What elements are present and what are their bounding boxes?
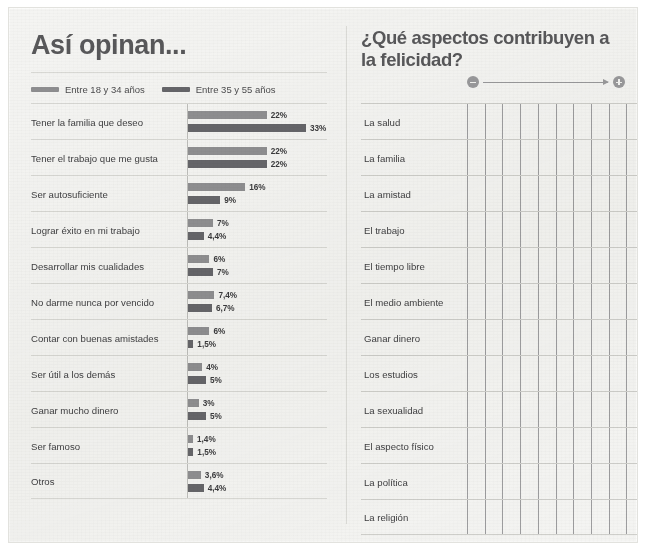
rating-cell[interactable]	[502, 428, 520, 463]
rating-cell[interactable]	[591, 356, 609, 391]
rating-cell[interactable]	[485, 428, 503, 463]
rating-cell[interactable]	[626, 500, 638, 534]
rating-cell[interactable]	[591, 392, 609, 427]
rating-cell[interactable]	[520, 212, 538, 247]
rating-cell[interactable]	[485, 356, 503, 391]
rating-cell[interactable]	[573, 212, 591, 247]
rating-cell[interactable]	[485, 140, 503, 175]
aspect-row[interactable]: El medio ambiente	[361, 283, 638, 319]
aspect-row[interactable]: La religión	[361, 499, 638, 535]
rating-cell[interactable]	[520, 392, 538, 427]
rating-cell[interactable]	[538, 284, 556, 319]
aspect-row[interactable]: La política	[361, 463, 638, 499]
rating-cell[interactable]	[538, 212, 556, 247]
rating-cell[interactable]	[538, 248, 556, 283]
rating-cell[interactable]	[467, 392, 485, 427]
rating-cell[interactable]	[626, 140, 638, 175]
rating-cell[interactable]	[591, 104, 609, 139]
rating-cell[interactable]	[502, 140, 520, 175]
rating-cell[interactable]	[556, 392, 574, 427]
rating-cell[interactable]	[502, 464, 520, 499]
rating-cell[interactable]	[467, 428, 485, 463]
rating-cell[interactable]	[485, 392, 503, 427]
rating-cell[interactable]	[538, 428, 556, 463]
aspect-row[interactable]: El aspecto físico	[361, 427, 638, 463]
rating-cell[interactable]	[485, 176, 503, 211]
rating-cell[interactable]	[609, 284, 627, 319]
rating-cell[interactable]	[573, 356, 591, 391]
rating-cell[interactable]	[520, 428, 538, 463]
rating-cell[interactable]	[467, 320, 485, 355]
rating-cell[interactable]	[573, 104, 591, 139]
rating-cell[interactable]	[502, 500, 520, 534]
rating-cell[interactable]	[467, 500, 485, 534]
aspect-row[interactable]: La familia	[361, 139, 638, 175]
rating-cell[interactable]	[520, 500, 538, 534]
rating-cell[interactable]	[556, 104, 574, 139]
rating-cell[interactable]	[556, 500, 574, 534]
rating-cell[interactable]	[573, 248, 591, 283]
rating-cell[interactable]	[626, 104, 638, 139]
rating-cell[interactable]	[502, 284, 520, 319]
rating-cell[interactable]	[520, 176, 538, 211]
rating-cell[interactable]	[591, 500, 609, 534]
rating-cell[interactable]	[538, 140, 556, 175]
rating-cell[interactable]	[573, 320, 591, 355]
rating-cell[interactable]	[626, 356, 638, 391]
rating-cell[interactable]	[573, 392, 591, 427]
rating-cell[interactable]	[609, 392, 627, 427]
rating-cell[interactable]	[538, 464, 556, 499]
rating-cell[interactable]	[609, 464, 627, 499]
rating-cell[interactable]	[520, 140, 538, 175]
rating-cell[interactable]	[485, 320, 503, 355]
rating-cell[interactable]	[485, 500, 503, 534]
rating-cell[interactable]	[609, 356, 627, 391]
rating-cell[interactable]	[485, 464, 503, 499]
rating-cell[interactable]	[626, 176, 638, 211]
rating-cell[interactable]	[556, 140, 574, 175]
rating-cell[interactable]	[520, 464, 538, 499]
rating-cell[interactable]	[538, 176, 556, 211]
rating-cell[interactable]	[538, 500, 556, 534]
rating-cell[interactable]	[626, 392, 638, 427]
rating-cell[interactable]	[520, 248, 538, 283]
rating-cell[interactable]	[573, 428, 591, 463]
rating-cell[interactable]	[573, 176, 591, 211]
rating-cell[interactable]	[467, 140, 485, 175]
rating-cell[interactable]	[609, 104, 627, 139]
rating-cell[interactable]	[556, 176, 574, 211]
rating-cell[interactable]	[502, 104, 520, 139]
aspect-row[interactable]: El trabajo	[361, 211, 638, 247]
rating-cell[interactable]	[538, 320, 556, 355]
rating-cell[interactable]	[591, 464, 609, 499]
rating-cell[interactable]	[573, 464, 591, 499]
aspect-row[interactable]: El tiempo libre	[361, 247, 638, 283]
rating-cell[interactable]	[467, 176, 485, 211]
rating-cell[interactable]	[609, 248, 627, 283]
aspect-row[interactable]: Ganar dinero	[361, 319, 638, 355]
rating-cell[interactable]	[556, 248, 574, 283]
rating-cell[interactable]	[591, 320, 609, 355]
rating-cell[interactable]	[609, 176, 627, 211]
rating-cell[interactable]	[485, 212, 503, 247]
rating-cell[interactable]	[573, 140, 591, 175]
rating-cell[interactable]	[556, 428, 574, 463]
rating-cell[interactable]	[556, 284, 574, 319]
aspect-row[interactable]: La amistad	[361, 175, 638, 211]
rating-cell[interactable]	[485, 104, 503, 139]
rating-cell[interactable]	[573, 500, 591, 534]
rating-cell[interactable]	[609, 428, 627, 463]
rating-cell[interactable]	[467, 356, 485, 391]
rating-cell[interactable]	[609, 320, 627, 355]
rating-cell[interactable]	[502, 248, 520, 283]
rating-cell[interactable]	[502, 320, 520, 355]
rating-cell[interactable]	[591, 284, 609, 319]
rating-cell[interactable]	[467, 284, 485, 319]
rating-cell[interactable]	[520, 104, 538, 139]
rating-cell[interactable]	[502, 392, 520, 427]
rating-cell[interactable]	[502, 212, 520, 247]
rating-cell[interactable]	[591, 212, 609, 247]
rating-cell[interactable]	[626, 320, 638, 355]
aspect-row[interactable]: Los estudios	[361, 355, 638, 391]
rating-cell[interactable]	[538, 356, 556, 391]
